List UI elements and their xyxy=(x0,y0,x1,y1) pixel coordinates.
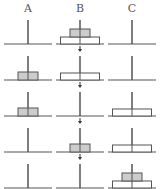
down-arrow-icon xyxy=(78,85,82,88)
down-arrow-icon xyxy=(78,121,82,124)
diagram-canvas: ABC xyxy=(0,0,160,189)
post-label-c: C xyxy=(128,2,136,15)
post-label-a: A xyxy=(23,2,33,15)
down-arrow-icon xyxy=(78,157,82,160)
down-arrow-icon xyxy=(78,49,82,52)
post-label-b: B xyxy=(76,2,84,15)
